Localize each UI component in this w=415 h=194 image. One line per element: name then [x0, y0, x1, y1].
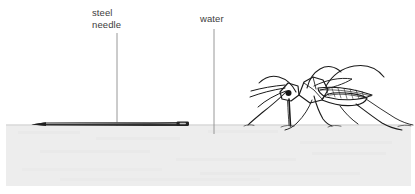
- water-fill-rect: [6, 125, 411, 186]
- figure-canvas: [0, 0, 415, 194]
- mosquito-insect: [244, 65, 413, 130]
- needle-body: [32, 122, 189, 126]
- water-label: water: [200, 13, 224, 25]
- steel-needle-label-line1: steel: [92, 7, 113, 18]
- surface-tension-figure: steelneedle water: [0, 0, 415, 194]
- mosquito-proboscis: [289, 99, 291, 126]
- mosquito-eye: [286, 90, 292, 96]
- steel-needle-label-line2: needle: [92, 19, 121, 30]
- steel-needle-label: steelneedle: [92, 7, 121, 30]
- mosquito-wing: [314, 78, 372, 99]
- needle-eye-hole: [180, 123, 187, 125]
- steel-needle: [31, 122, 189, 127]
- water-body: [6, 124, 411, 186]
